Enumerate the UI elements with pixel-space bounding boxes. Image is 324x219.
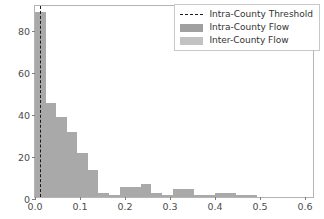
histogram-bar bbox=[194, 195, 205, 197]
histogram-bar bbox=[215, 193, 226, 197]
y-tick-mark bbox=[32, 115, 35, 116]
y-tick-label: 60 bbox=[18, 68, 30, 79]
y-tick-mark bbox=[32, 199, 35, 200]
histogram-figure: 0.00.10.20.30.40.50.6 020406080 Intra-Co… bbox=[0, 0, 324, 219]
histogram-bar bbox=[173, 189, 184, 197]
x-tick-label: 0.2 bbox=[117, 201, 132, 212]
histogram-bar bbox=[88, 170, 99, 197]
x-tick-label: 0.6 bbox=[298, 201, 313, 212]
histogram-bar bbox=[151, 193, 162, 197]
legend-color-swatch-icon bbox=[180, 37, 203, 45]
histogram-bar bbox=[56, 117, 67, 197]
histogram-bar bbox=[236, 195, 247, 197]
y-tick-mark bbox=[32, 31, 35, 32]
legend-item: Intra-County Threshold bbox=[180, 8, 313, 21]
chart-legend: Intra-County ThresholdIntra-County FlowI… bbox=[174, 4, 320, 51]
y-tick-label: 20 bbox=[18, 152, 30, 163]
x-tick-mark bbox=[215, 197, 216, 200]
y-tick-mark bbox=[32, 73, 35, 74]
y-tick-label: 80 bbox=[18, 26, 30, 37]
x-tick-mark bbox=[35, 197, 36, 200]
legend-label: Intra-County Threshold bbox=[209, 9, 313, 20]
legend-color-swatch-icon bbox=[180, 24, 203, 32]
y-tick-label: 40 bbox=[18, 110, 30, 121]
x-tick-mark bbox=[125, 197, 126, 200]
histogram-bar bbox=[204, 195, 215, 197]
legend-dashed-line-icon bbox=[180, 14, 203, 15]
x-tick-mark bbox=[80, 197, 81, 200]
histogram-bar bbox=[98, 193, 109, 197]
histogram-bar bbox=[247, 195, 258, 197]
x-tick-mark bbox=[305, 197, 306, 200]
y-tick-label: 0 bbox=[24, 194, 30, 205]
x-tick-mark bbox=[260, 197, 261, 200]
histogram-bar bbox=[120, 187, 131, 197]
histogram-bar bbox=[130, 187, 141, 197]
legend-label: Inter-County Flow bbox=[209, 35, 288, 46]
legend-item: Intra-County Flow bbox=[180, 21, 313, 34]
y-tick-mark bbox=[32, 157, 35, 158]
histogram-bar bbox=[141, 184, 152, 197]
x-tick-mark bbox=[170, 197, 171, 200]
histogram-bar bbox=[225, 193, 236, 197]
x-tick-label: 0.1 bbox=[72, 201, 87, 212]
histogram-bar bbox=[67, 132, 78, 197]
histogram-bar bbox=[46, 103, 57, 197]
x-tick-label: 0.4 bbox=[208, 201, 223, 212]
histogram-bar bbox=[109, 195, 120, 197]
x-tick-label: 0.3 bbox=[162, 201, 177, 212]
legend-item: Inter-County Flow bbox=[180, 34, 313, 47]
histogram-bar bbox=[183, 189, 194, 197]
legend-label: Intra-County Flow bbox=[209, 22, 289, 33]
histogram-bar bbox=[77, 153, 88, 197]
intra-county-threshold-line bbox=[40, 6, 41, 197]
x-tick-label: 0.5 bbox=[253, 201, 268, 212]
